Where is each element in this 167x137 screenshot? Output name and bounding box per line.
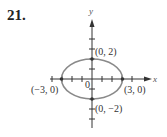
point-3-0 [121, 77, 125, 81]
label-point-0-2: (0, 2) [95, 46, 117, 58]
point-neg3-0 [60, 77, 64, 81]
ellipse-graph: x y 0 (0, 2) (0, −2) (−3, 0) (3, 0) [0, 0, 167, 137]
x-axis-arrow-icon [144, 77, 152, 82]
x-axis-label: x [152, 74, 157, 84]
x-axis: x [50, 74, 157, 84]
y-axis-label: y [88, 6, 93, 16]
y-axis-arrow-icon [90, 19, 95, 27]
origin-label: 0 [85, 79, 90, 90]
label-point-0-neg2: (0, −2) [95, 103, 122, 115]
point-0-2 [90, 57, 94, 61]
y-axis: y [88, 6, 95, 128]
label-point-3-0: (3, 0) [124, 84, 146, 96]
label-point-neg3-0: (−3, 0) [31, 84, 58, 96]
point-0-neg2 [90, 97, 94, 101]
